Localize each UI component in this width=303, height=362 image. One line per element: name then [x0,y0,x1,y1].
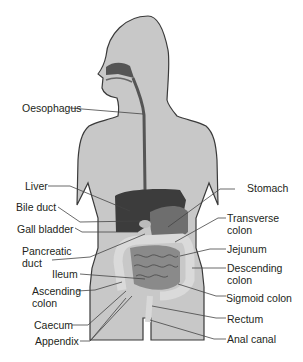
label-transverse-colon: Transverse colon [227,212,279,236]
label-transverse-colon-line1: Transverse [227,212,279,224]
label-stomach: Stomach [247,182,288,194]
label-rectum: Rectum [227,313,263,325]
label-descending-colon: Descending colon [227,262,282,286]
label-pancreatic-duct-line1: Pancreatic [22,245,72,257]
small-intestine-organ [130,245,180,289]
label-jejunum: Jejunum [227,243,267,255]
label-descending-colon-line2: colon [227,274,282,286]
body-silhouette [77,16,218,340]
label-pancreatic-duct: Pancreatic duct [22,245,72,269]
gall-bladder-organ [139,220,151,228]
label-ascending-colon-line1: Ascending [32,285,81,297]
label-oesophagus: Oesophagus [22,102,82,114]
label-sigmoid-colon: Sigmoid colon [226,292,292,304]
label-appendix: Appendix [35,335,79,347]
digestive-system-diagram: Oesophagus Liver Bile duct Gall bladder … [0,0,303,362]
label-ascending-colon-line2: colon [32,297,81,309]
label-gall-bladder: Gall bladder [17,223,74,235]
label-caecum: Caecum [34,319,73,331]
label-transverse-colon-line2: colon [227,224,279,236]
label-bile-duct: Bile duct [16,201,56,213]
label-anal-canal: Anal canal [227,333,276,345]
label-ascending-colon: Ascending colon [32,285,81,309]
label-descending-colon-line1: Descending [227,262,282,274]
rectum-organ [148,296,150,322]
label-ileum: Ileum [52,268,78,280]
label-liver: Liver [25,180,48,192]
